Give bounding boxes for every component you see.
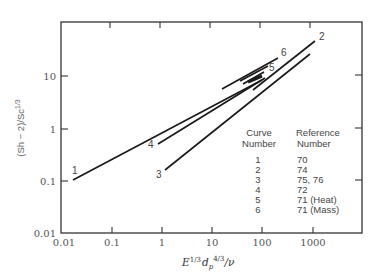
- y-tick-labels: 0.01 0.1 1 10: [34, 71, 56, 239]
- legend-ref-6: 71 (Mass): [297, 204, 339, 215]
- x-axis-label: E1/3dp4/3/ν: [181, 255, 235, 271]
- curve-label-2: 2: [319, 31, 325, 42]
- y-tick-10: 10: [43, 71, 56, 82]
- x-tick-0.01: 0.01: [53, 237, 75, 248]
- legend-header-ref-2: Number: [297, 138, 331, 149]
- curve-3: [165, 54, 310, 170]
- legend: Curve Number Reference Number 1 2 3 4 5 …: [242, 127, 340, 215]
- x-tick-1000: 1000: [300, 237, 325, 248]
- x-tick-100: 100: [252, 237, 271, 248]
- x-label-sup2: 4/3: [213, 255, 224, 263]
- x-label-tail: /ν: [223, 256, 235, 268]
- curves: [73, 41, 315, 180]
- y-tick-0.01: 0.01: [34, 228, 56, 239]
- x-label-E: E: [181, 256, 190, 268]
- y-axis-label: (Sh − 2)/Sc1/3: [14, 99, 26, 157]
- curve-label-6: 6: [281, 47, 287, 58]
- y-axis-label-sup: 1/3: [14, 99, 21, 109]
- chart-canvas: 0.01 0.1 1 10 100 1000 0.01 0.1 1 10 (Sh…: [0, 0, 383, 278]
- curve-label-4: 4: [148, 139, 154, 150]
- x-label-sub: p: [209, 263, 214, 271]
- x-tick-1: 1: [159, 237, 165, 248]
- legend-curve-6: 6: [255, 204, 260, 215]
- curve-label-3: 3: [156, 169, 162, 180]
- x-label-sup1: 1/3: [190, 256, 201, 264]
- y-tick-0.1: 0.1: [40, 176, 56, 187]
- x-tick-labels: 0.01 0.1 1 10 100 1000: [53, 237, 326, 248]
- legend-header-curve-1: Curve: [246, 127, 271, 138]
- y-axis-label-main: (Sh − 2)/Sc: [15, 109, 26, 157]
- svg-text:(Sh − 2)/Sc1/3: (Sh − 2)/Sc1/3: [14, 99, 26, 157]
- legend-header-curve-2: Number: [242, 138, 276, 149]
- y-tick-1: 1: [50, 124, 56, 135]
- curve-1: [73, 80, 262, 180]
- curve-label-1: 1: [72, 165, 78, 176]
- legend-header-ref-1: Reference: [296, 127, 340, 138]
- x-tick-0.1: 0.1: [104, 237, 120, 248]
- x-tick-10: 10: [206, 237, 219, 248]
- curve-labels: 1 2 3 4 5 6: [72, 31, 325, 180]
- curve-label-5: 5: [269, 62, 275, 73]
